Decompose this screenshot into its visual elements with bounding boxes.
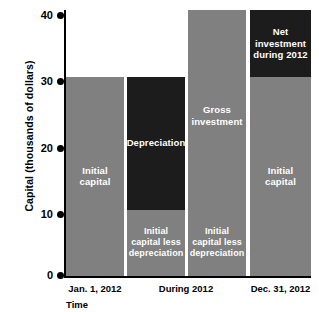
segment-label-initial-capital: Initial capital	[66, 165, 124, 188]
x-tick-label-during-2012: During 2012	[128, 283, 244, 294]
y-tick-label-30: 30	[41, 76, 53, 87]
y-tick-dot-icon	[57, 78, 64, 85]
plot-area: Initial capital Depreciation Initial cap…	[66, 10, 311, 276]
y-tick-30: 30	[26, 75, 64, 87]
segment-depreciation[interactable]: Depreciation	[127, 77, 185, 210]
x-tick-label-jan-1-2012: Jan. 1, 2012	[66, 283, 124, 294]
segment-initial-capital-less-depreciation[interactable]: Initial capital less depreciation	[188, 210, 246, 277]
y-tick-label-0: 0	[47, 270, 53, 281]
segment-label-net-investment: Net investment during 2012	[250, 26, 311, 61]
segment-label-initial-capital-less-depreciation: Initial capital less depreciation	[127, 226, 186, 259]
bar-depreciation[interactable]: Depreciation Initial capital less deprec…	[127, 10, 185, 276]
y-tick-dot-icon	[57, 12, 64, 19]
segment-label-initial-capital: Initial capital	[250, 165, 311, 188]
segment-net-investment[interactable]: Net investment during 2012	[250, 10, 311, 77]
y-tick-label-40: 40	[41, 10, 53, 21]
bar-chart: Capital (thousands of dollars) 40 30 20 …	[0, 0, 319, 312]
y-tick-label-20: 20	[41, 143, 53, 154]
y-tick-dot-icon	[57, 211, 64, 218]
segment-label-gross-investment: Gross investment	[188, 104, 246, 127]
segment-label-initial-capital-less-depreciation: Initial capital less depreciation	[188, 226, 247, 259]
segment-initial-capital[interactable]: Initial capital	[250, 77, 311, 277]
segment-initial-capital-less-depreciation[interactable]: Initial capital less depreciation	[127, 210, 185, 277]
segment-gross-investment[interactable]: Gross investment	[188, 10, 246, 210]
x-axis-line	[64, 276, 311, 278]
segment-label-depreciation: Depreciation	[125, 137, 188, 149]
segment-initial-capital[interactable]: Initial capital	[66, 77, 124, 277]
bar-initial-capital[interactable]: Initial capital	[66, 10, 124, 276]
y-tick-40: 40	[26, 9, 64, 21]
x-axis-title: Time	[66, 299, 88, 310]
y-tick-10: 10	[26, 208, 64, 220]
y-tick-dot-icon	[57, 145, 64, 152]
y-tick-label-10: 10	[41, 209, 53, 220]
bar-gross-investment[interactable]: Gross investment Initial capital less de…	[188, 10, 246, 276]
y-tick-20: 20	[26, 142, 64, 154]
bar-net-investment[interactable]: Net investment during 2012 Initial capit…	[250, 10, 311, 276]
y-tick-dot-icon	[57, 272, 64, 279]
x-tick-label-dec-31-2012: Dec. 31, 2012	[250, 283, 311, 294]
y-tick-0: 0	[26, 269, 64, 281]
